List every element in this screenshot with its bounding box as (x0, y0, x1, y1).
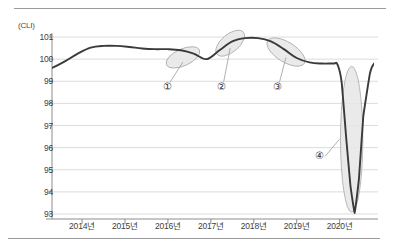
callout-1-label: ① (163, 83, 172, 93)
y-tick-label: 99 (13, 76, 53, 86)
x-tick-label: 2014년 (69, 219, 95, 231)
x-tick-label: 2015년 (112, 219, 138, 231)
callout-leader-lines-group (170, 48, 340, 156)
plot-area (0, 0, 398, 248)
y-tick-label: 101 (13, 32, 53, 42)
y-tick-label: 96 (13, 143, 53, 153)
x-tick-label: 2018년 (241, 219, 267, 231)
y-tick-label: 94 (13, 187, 53, 197)
x-tick-label: 2017년 (198, 219, 224, 231)
highlight-ellipse-① (163, 42, 203, 72)
callout-3-label: ③ (273, 83, 282, 93)
y-tick-label: 97 (13, 121, 53, 131)
chart-figure: (CLI) 10110099989796959493 2014년2015년201… (0, 0, 398, 248)
x-tick-label: 2020년 (327, 219, 353, 231)
x-tick-label: 2019년 (284, 219, 310, 231)
callout-2-label: ② (217, 83, 226, 93)
y-tick-label: 93 (13, 209, 53, 219)
y-tick-label: 100 (13, 54, 53, 64)
y-axis-tick-labels: 10110099989796959493 (0, 0, 53, 248)
x-tick-label: 2016년 (155, 219, 181, 231)
y-tick-label: 98 (13, 98, 53, 108)
y-tick-label: 95 (13, 165, 53, 175)
callout-4-label: ④ (315, 152, 324, 162)
highlight-ellipse-③ (263, 32, 310, 72)
